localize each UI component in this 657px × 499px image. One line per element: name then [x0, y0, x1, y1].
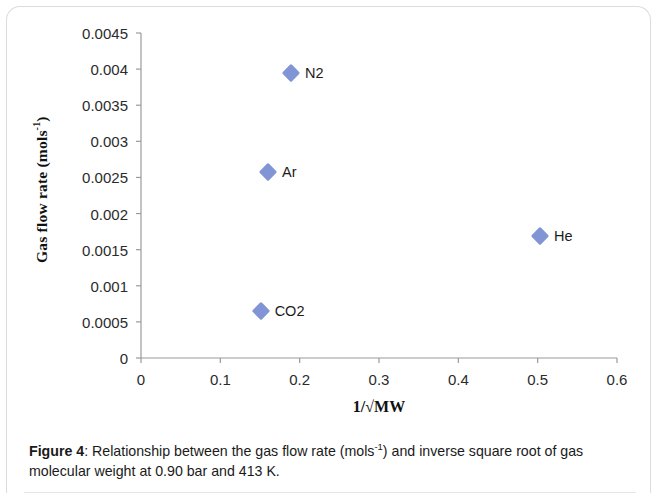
y-tick-label: 0.001 [40, 277, 128, 294]
y-tick-label: 0.003 [40, 133, 128, 150]
x-tick-label: 0.4 [448, 371, 469, 388]
y-tick-label: 0 [40, 350, 128, 367]
scan-artifact-line [24, 492, 636, 493]
x-tick-label: 0.1 [210, 371, 231, 388]
x-tick-label: 0.5 [527, 371, 548, 388]
y-tick-label: 0.0015 [40, 241, 128, 258]
y-tick-label: 0.004 [40, 61, 128, 78]
x-tick-label: 0 [137, 371, 145, 388]
data-point-label-co2: CO2 [275, 303, 305, 319]
x-tick-label: 0.3 [369, 371, 390, 388]
x-tick-label: 0.2 [289, 371, 310, 388]
y-tick-label: 0.0005 [40, 313, 128, 330]
chart-figure: 00.00050.0010.00150.0020.00250.0030.0035… [0, 0, 657, 432]
y-tick-label: 0.0035 [40, 97, 128, 114]
data-point-label-ar: Ar [282, 164, 297, 180]
y-tick-label: 0.002 [40, 205, 128, 222]
figure-caption: Figure 4: Relationship between the gas f… [29, 440, 629, 482]
y-axis-title: Gas flow rate (mols-1) [31, 45, 50, 335]
x-axis-title: 1/√MW [141, 398, 617, 416]
figure-page: 00.00050.0010.00150.0020.00250.0030.0035… [0, 0, 657, 499]
x-axis-ticks [141, 358, 617, 363]
data-point-label-n2: N2 [305, 65, 324, 81]
x-tick-label: 0.6 [607, 371, 628, 388]
y-tick-label: 0.0025 [40, 169, 128, 186]
y-axis-ticks [136, 33, 141, 358]
y-tick-label: 0.0045 [40, 25, 128, 42]
data-point-label-he: He [554, 228, 573, 244]
